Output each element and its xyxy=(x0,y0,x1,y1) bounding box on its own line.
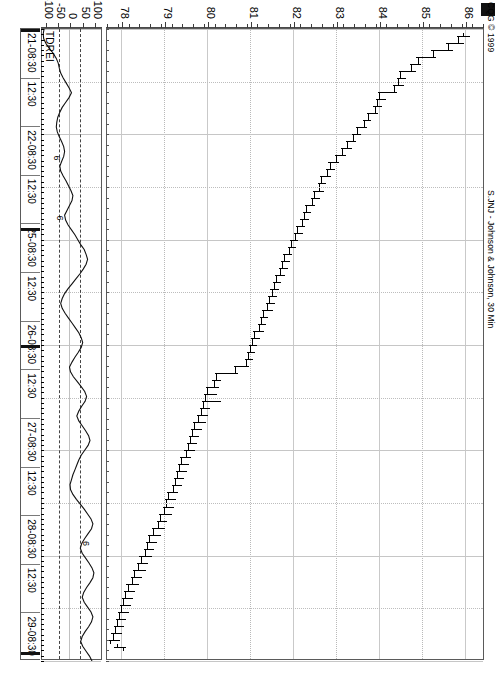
ohlc-open-tick xyxy=(181,461,182,464)
ohlc-open-tick xyxy=(375,110,376,113)
price-axis-minor-tick xyxy=(462,24,463,28)
price-axis-minor-tick xyxy=(225,24,226,28)
time-axis-label: 29-08:30 xyxy=(26,616,37,655)
indicator-axis-line xyxy=(41,27,102,28)
time-tick xyxy=(106,566,109,567)
ohlc-open-tick xyxy=(199,419,200,422)
time-tick xyxy=(41,619,44,620)
ohlc-open-tick xyxy=(368,117,369,120)
price-gridline xyxy=(422,29,423,659)
indicator-axis-tick xyxy=(83,23,84,28)
price-axis-minor-tick xyxy=(139,24,140,28)
price-axis-tick xyxy=(122,22,123,28)
time-tick xyxy=(106,166,109,167)
rotated-chart-canvas: CQG © 1999 S.JNJ - Johnson & Johnson, 30… xyxy=(0,0,498,700)
time-tick xyxy=(41,213,44,214)
session-marker xyxy=(21,228,40,231)
price-axis-minor-tick xyxy=(472,24,473,28)
time-tick xyxy=(41,582,44,583)
ohlc-bar xyxy=(215,373,239,374)
ohlc-bar xyxy=(416,57,435,58)
ohlc-open-tick xyxy=(175,482,176,485)
price-axis-minor-tick xyxy=(161,24,162,28)
price-axis-tick xyxy=(208,22,209,28)
time-axis-label: 12:30 xyxy=(26,373,37,398)
time-tick xyxy=(41,250,44,251)
time-tick xyxy=(41,477,44,478)
ohlc-open-tick xyxy=(158,525,159,528)
time-tick xyxy=(41,550,44,551)
time-tick xyxy=(106,345,109,346)
ohlc-open-tick xyxy=(216,377,217,380)
time-tick xyxy=(41,319,44,320)
time-tick xyxy=(41,119,44,120)
indicator-annotation: 6 xyxy=(52,156,62,161)
time-tick xyxy=(41,313,44,314)
ohlc-open-tick xyxy=(379,96,380,99)
time-tick xyxy=(41,577,44,578)
price-axis-label: 78 xyxy=(119,0,131,19)
time-axis-label: 12:30 xyxy=(26,276,37,301)
ohlc-open-tick xyxy=(168,496,169,499)
ohlc-open-tick xyxy=(463,33,464,36)
ohlc-open-tick xyxy=(312,202,313,205)
indicator-axis-tick xyxy=(58,23,59,28)
ohlc-open-tick xyxy=(123,602,124,605)
time-tick xyxy=(41,608,44,609)
time-tick xyxy=(41,261,44,262)
indicator-pane[interactable]: 666 xyxy=(41,28,102,660)
time-tick xyxy=(41,140,44,141)
ohlc-bar xyxy=(378,92,397,93)
time-tick xyxy=(106,313,109,314)
price-axis-minor-tick xyxy=(311,24,312,28)
price-axis-line xyxy=(106,27,484,28)
time-tick xyxy=(41,255,44,256)
time-tick xyxy=(106,250,109,251)
price-gridline xyxy=(465,29,466,659)
price-axis-minor-tick xyxy=(258,24,259,28)
price-axis-minor-tick xyxy=(172,24,173,28)
time-tick xyxy=(41,277,44,278)
time-tick xyxy=(41,208,44,209)
time-tick xyxy=(106,408,109,409)
time-tick xyxy=(41,166,44,167)
ohlc-open-tick xyxy=(141,560,142,563)
time-tick xyxy=(41,192,44,193)
time-tick xyxy=(106,113,109,114)
price-gridline xyxy=(379,29,380,659)
time-tick xyxy=(41,382,44,383)
time-tick xyxy=(106,440,109,441)
ohlc-open-tick xyxy=(252,342,253,345)
ohlc-open-tick xyxy=(235,370,236,373)
time-axis-separator xyxy=(21,321,40,322)
time-tick xyxy=(106,524,109,525)
time-tick xyxy=(41,124,44,125)
time-tick xyxy=(41,556,44,557)
time-tick xyxy=(41,614,44,615)
ohlc-open-tick xyxy=(295,237,296,240)
time-tick xyxy=(106,208,109,209)
time-tick xyxy=(106,229,109,230)
time-axis[interactable]: 21-08:3012:3022-08:3012:3025-08:3012:302… xyxy=(20,28,40,660)
time-tick xyxy=(41,97,44,98)
time-axis-label: 27-08:30 xyxy=(26,422,37,461)
time-tick xyxy=(41,377,44,378)
time-tick xyxy=(106,145,109,146)
price-axis-label: 80 xyxy=(205,0,217,19)
price-pane[interactable] xyxy=(106,28,484,660)
session-marker xyxy=(21,652,40,655)
ohlc-open-tick xyxy=(121,609,122,612)
ohlc-open-tick xyxy=(458,40,459,43)
ohlc-open-tick xyxy=(321,180,322,183)
ohlc-open-tick xyxy=(179,468,180,471)
time-tick xyxy=(106,577,109,578)
ohlc-open-tick xyxy=(177,475,178,478)
time-tick xyxy=(41,540,44,541)
time-tick xyxy=(41,329,44,330)
time-tick xyxy=(41,240,44,241)
ohlc-open-tick xyxy=(201,412,202,415)
time-tick xyxy=(41,545,44,546)
time-tick xyxy=(41,424,44,425)
ohlc-open-tick xyxy=(314,195,315,198)
ohlc-open-tick xyxy=(147,546,148,549)
